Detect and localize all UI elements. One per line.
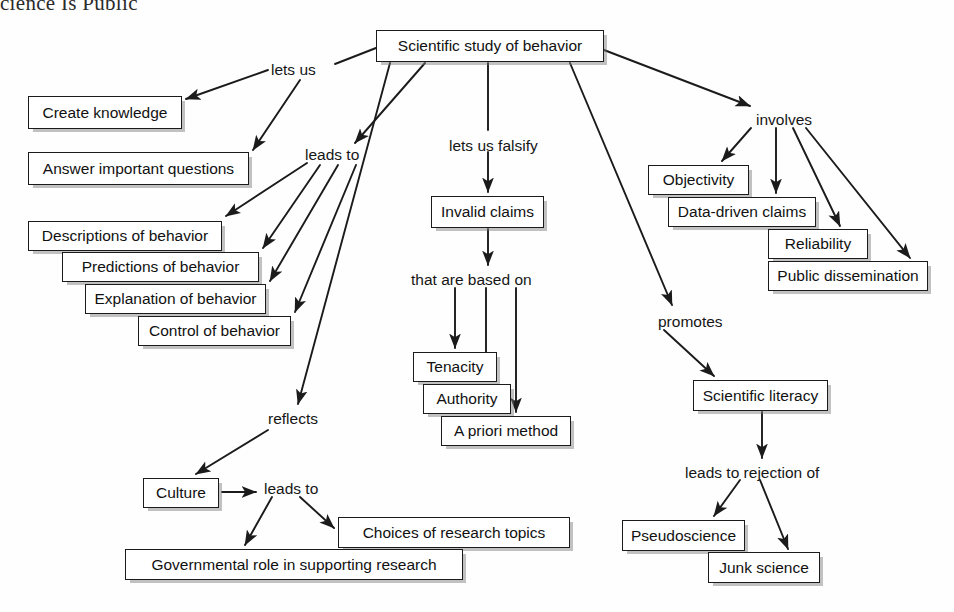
concept-node[interactable]: Control of behavior <box>138 316 291 346</box>
concept-node[interactable]: Authority <box>423 384 511 414</box>
relationship-label: reflects <box>268 411 318 427</box>
concept-node[interactable]: A priori method <box>441 416 571 446</box>
concept-node[interactable]: Governmental role in supporting research <box>125 549 463 580</box>
concept-node[interactable]: Public dissemination <box>768 261 928 291</box>
diagram-edge <box>664 330 714 376</box>
diagram-edge <box>355 63 425 143</box>
relationship-label: involves <box>756 112 812 128</box>
diagram-edge <box>298 63 390 404</box>
diagram-edge <box>253 80 300 150</box>
concept-node[interactable]: Scientific study of behavior <box>376 30 604 62</box>
relationship-label: promotes <box>658 314 723 330</box>
diagram-edge <box>300 497 334 528</box>
concept-node[interactable]: Answer important questions <box>28 152 249 185</box>
concept-node[interactable]: Junk science <box>708 552 820 583</box>
relationship-label: leads to <box>264 481 318 497</box>
concept-node[interactable]: Explanation of behavior <box>85 284 266 314</box>
concept-node[interactable]: Create knowledge <box>28 96 182 129</box>
diagram-edge <box>196 430 268 474</box>
concept-node[interactable]: Descriptions of behavior <box>28 221 222 251</box>
concept-node[interactable]: Reliability <box>768 229 868 259</box>
diagram-edge <box>604 50 750 106</box>
diagram-edge <box>760 480 788 549</box>
relationship-label: leads to <box>305 147 359 163</box>
concept-node[interactable]: Choices of research topics <box>338 517 570 548</box>
relationship-label: leads to rejection of <box>685 465 819 481</box>
diagram-edge <box>335 48 376 64</box>
concept-node[interactable]: Culture <box>143 478 219 508</box>
concept-node[interactable]: Pseudoscience <box>622 520 745 551</box>
diagram-edge <box>714 480 740 516</box>
diagram-edge <box>722 128 751 161</box>
diagram-edge <box>245 497 272 545</box>
concept-node[interactable]: Tenacity <box>413 352 497 382</box>
concept-node[interactable]: Invalid claims <box>431 196 544 228</box>
relationship-label: lets us <box>271 62 316 78</box>
concept-node[interactable]: Objectivity <box>648 165 749 195</box>
concept-node[interactable]: Predictions of behavior <box>62 252 259 282</box>
relationship-label: lets us falsify <box>449 138 538 154</box>
diagram-canvas: cience Is Public Scientific study of beh… <box>0 0 954 612</box>
diagram-edge <box>263 165 320 248</box>
concept-node[interactable]: Scientific literacy <box>693 380 828 411</box>
concept-node[interactable]: Data-driven claims <box>668 197 816 227</box>
diagram-edge <box>186 70 268 99</box>
relationship-label: that are based on <box>411 272 532 288</box>
